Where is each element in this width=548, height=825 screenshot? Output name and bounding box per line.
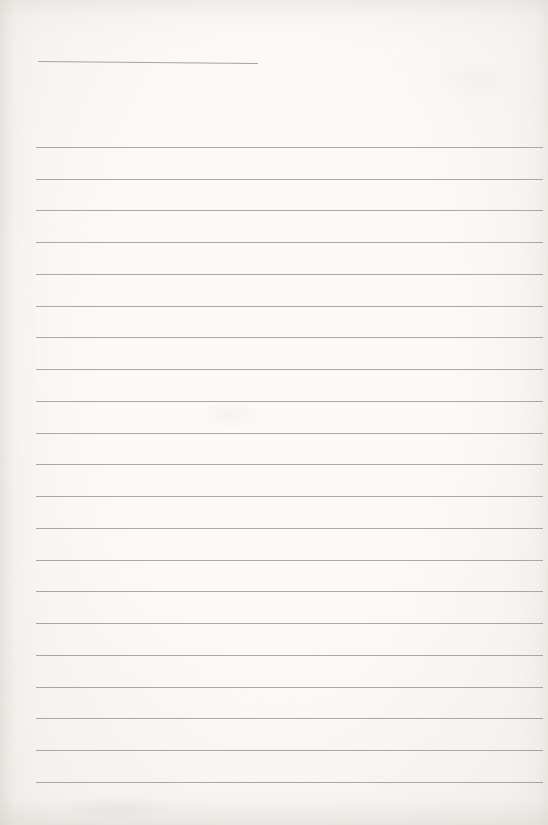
ruled-line [36,370,543,402]
ruled-line [36,243,543,275]
ruled-line [36,656,543,688]
title-underline [38,61,258,64]
ruled-line [36,211,543,243]
ruled-line [36,624,543,656]
notebook-page [0,0,548,825]
ruled-line [36,719,543,751]
paper-smudge [430,60,520,100]
ruled-line [36,529,543,561]
ruled-line [36,180,543,212]
ruled-line [36,688,543,720]
ruled-line [36,338,543,370]
ruled-line [36,497,543,529]
ruled-line [36,148,543,180]
ruled-line [36,561,543,593]
ruled-line [36,465,543,497]
ruled-line [36,402,543,434]
ruled-line [36,751,543,783]
paper-smudge [60,795,180,821]
ruled-line [36,307,543,339]
ruled-line [36,592,543,624]
ruled-lines-container [36,116,543,783]
ruled-line [36,275,543,307]
ruled-line [36,116,543,148]
ruled-line [36,434,543,466]
